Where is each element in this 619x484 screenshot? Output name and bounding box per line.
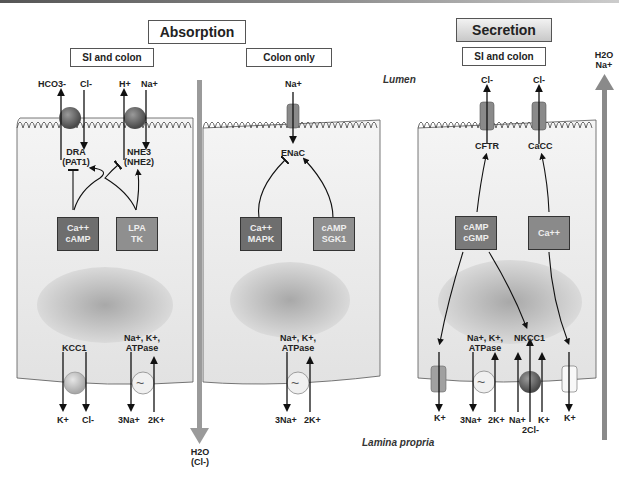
- atpase-line1: Na+, K+,: [465, 333, 505, 343]
- basal-ion-2k: 2K+: [148, 415, 165, 425]
- atpase-line2: ATPase: [278, 343, 318, 353]
- basal-ion-2k: 2K+: [304, 415, 321, 425]
- ion-cl: Cl-: [80, 79, 92, 89]
- signal-box-ca-mapk: Ca++ MAPK: [240, 217, 282, 251]
- dra-name: DRA: [58, 147, 94, 157]
- signal-box-ca-camp: Ca++ cAMP: [57, 217, 99, 251]
- absorption-flow-label: H2O (Cl-): [190, 447, 210, 467]
- signal-line1: cAMP: [314, 223, 354, 234]
- signal-line2: TK: [117, 234, 157, 245]
- basal-ion-k-2: K+: [538, 415, 550, 425]
- cell-absorption-si-colon: [17, 118, 193, 384]
- lumen-label: Lumen: [383, 74, 416, 85]
- ion-na: Na+: [141, 79, 158, 89]
- channel-cftr: CFTR: [475, 141, 499, 151]
- absorption-title: Absorption: [148, 20, 246, 44]
- nhe3-alt: (NHE2): [120, 157, 158, 167]
- basal-ion-na: Na+: [509, 415, 526, 425]
- atpase-line1: Na+, K+,: [278, 333, 318, 343]
- signal-line1: Ca++: [58, 223, 98, 234]
- signal-line2: cGMP: [456, 233, 496, 244]
- atpase-label-cell3: Na+, K+, ATPase: [465, 333, 505, 353]
- atpase-line2: ATPase: [465, 343, 505, 353]
- signal-line1: cAMP: [456, 222, 496, 233]
- ion-hco3: HCO3-: [38, 79, 66, 89]
- signal-box-camp-sgk1: cAMP SGK1: [313, 217, 355, 251]
- panel-label-colon-only: Colon only: [246, 48, 332, 67]
- svg-text:~: ~: [477, 374, 485, 390]
- signal-line2: MAPK: [241, 234, 281, 245]
- atpase-line2: ATPase: [122, 343, 162, 353]
- basal-ion-cl: Cl-: [82, 415, 94, 425]
- basal-ion-2cl: 2Cl-: [522, 425, 539, 435]
- basal-ion-3na: 3Na+: [275, 415, 297, 425]
- nhe3-name: NHE3: [120, 147, 158, 157]
- dra-alt: (PAT1): [58, 157, 94, 167]
- transporter-dra: DRA (PAT1): [58, 147, 94, 167]
- atpase-label-cell1: Na+, K+, ATPase: [122, 333, 162, 353]
- basal-ion-3na: 3Na+: [118, 415, 140, 425]
- basal-ion-k-3: K+: [564, 413, 576, 423]
- signal-box-lpa-tk: LPA TK: [116, 217, 158, 251]
- channel-enac: ENaC: [281, 148, 305, 158]
- signal-line1: Ca++: [529, 228, 569, 239]
- channel-cacc: CaCC: [528, 141, 553, 151]
- kcc1-label: KCC1: [62, 343, 87, 353]
- signal-line1: Ca++: [241, 223, 281, 234]
- signal-line2: SGK1: [314, 234, 354, 245]
- atpase-line1: Na+, K+,: [122, 333, 162, 343]
- ion-cl-cftr: Cl-: [481, 75, 493, 85]
- atpase-label-cell2: Na+, K+, ATPase: [278, 333, 318, 353]
- lamina-propria-label: Lamina propria: [362, 437, 434, 448]
- signal-box-ca: Ca++: [528, 216, 570, 250]
- basal-ion-3na: 3Na+: [460, 415, 482, 425]
- secretion-flow-arrow: [595, 74, 614, 440]
- ion-na-colon: Na+: [285, 79, 302, 89]
- ion-cl-cacc: Cl-: [533, 75, 545, 85]
- basal-ion-k-1: K+: [434, 413, 446, 423]
- secretion-flow-label: H2O Na+: [592, 50, 616, 70]
- basal-ion-k: K+: [57, 415, 69, 425]
- panel-label-si-colon-secretion: SI and colon: [462, 47, 546, 66]
- cell-secretion-si-colon: [418, 120, 596, 382]
- signal-line1: LPA: [117, 223, 157, 234]
- basal-ion-2k: 2K+: [488, 415, 505, 425]
- signal-box-camp-cgmp: cAMP cGMP: [455, 216, 497, 250]
- svg-text:~: ~: [291, 375, 299, 391]
- secretion-title: Secretion: [456, 18, 552, 42]
- ion-h: H+: [119, 79, 131, 89]
- secretion-flow-line1: H2O: [592, 50, 616, 60]
- panel-label-si-colon-absorption: SI and colon: [70, 48, 154, 67]
- absorption-flow-line1: H2O: [190, 447, 210, 457]
- signal-line2: cAMP: [58, 234, 98, 245]
- secretion-flow-line2: Na+: [592, 60, 616, 70]
- svg-text:~: ~: [136, 375, 144, 391]
- nkcc1-label: NKCC1: [514, 333, 545, 343]
- transporter-nhe3: NHE3 (NHE2): [120, 147, 158, 167]
- absorption-flow-line2: (Cl-): [190, 457, 210, 467]
